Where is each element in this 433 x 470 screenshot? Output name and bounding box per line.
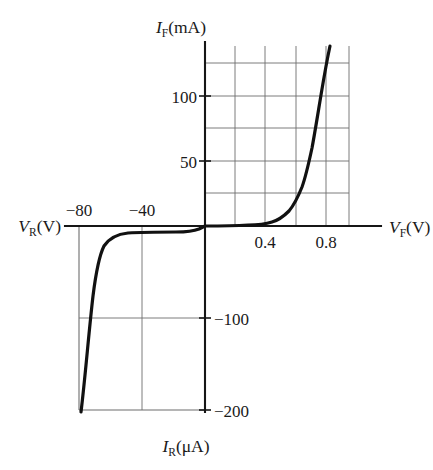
xtick-label-minus80: −80	[66, 201, 93, 220]
ytick-label-100: 100	[172, 88, 198, 107]
forward-current-axis-title: IF(mA)	[155, 17, 206, 39]
reverse-quadrant-grid	[79, 226, 205, 410]
xtick-label-minus40: −40	[129, 201, 156, 220]
ytick-label-50: 50	[180, 153, 197, 172]
reverse-bias-curve	[81, 226, 205, 412]
ytick-label-minus200: −200	[214, 402, 249, 421]
forward-voltage-axis-title: VF(V)	[389, 217, 431, 239]
reverse-current-axis-title: IR(μA)	[161, 436, 209, 458]
reverse-voltage-unit: (V)	[37, 216, 61, 236]
iv-characteristic-chart: 100 50 −100 −200 0.4 0.8 −80 −40 IF(mA) …	[0, 0, 433, 470]
reverse-voltage-axis-title: VR(V)	[18, 216, 61, 238]
forward-bias-curve	[205, 46, 330, 226]
forward-current-unit: (mA)	[168, 17, 206, 37]
ytick-label-minus100: −100	[214, 310, 249, 329]
xtick-label-0-8: 0.8	[315, 233, 336, 252]
reverse-current-unit: (μA)	[176, 436, 210, 456]
xtick-label-0-4: 0.4	[254, 233, 276, 252]
forward-quadrant-grid	[205, 46, 349, 226]
diode-iv-figure: 100 50 −100 −200 0.4 0.8 −80 −40 IF(mA) …	[0, 0, 433, 470]
forward-voltage-unit: (V)	[406, 217, 430, 237]
